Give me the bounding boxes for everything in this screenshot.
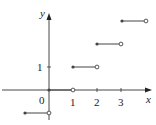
x-tick-label-3: 3 [118,96,124,108]
y-axis-label: y [39,7,45,19]
x-tick-label-2: 2 [94,96,100,108]
x-tick-label-1: 1 [70,96,76,108]
open-dot-icon [95,65,99,69]
closed-dot-icon [23,111,26,114]
open-dot-icon [119,42,123,46]
open-dot-icon [144,19,148,23]
x-axis-label: x [145,93,151,105]
closed-dot-icon [47,88,50,91]
closed-dot-icon [120,19,123,22]
x-axis-arrow-icon [145,88,152,93]
closed-dot-icon [71,65,74,68]
open-dot-icon [47,111,51,115]
step-function-graph: y x 0 1 2 3 1 [0,0,156,125]
origin-label: 0 [39,94,45,106]
open-dot-icon [71,88,75,92]
y-tick-label-1: 1 [37,61,43,73]
y-axis-arrow-icon [47,13,52,20]
closed-dot-icon [95,42,98,45]
